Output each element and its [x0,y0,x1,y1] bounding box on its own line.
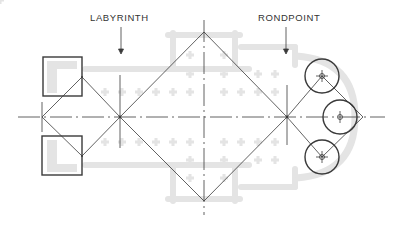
cathedral-geometry-diagram [0,0,405,227]
cathedral-plan-ghost [0,0,355,204]
labyrinth-arrow [119,27,124,54]
rondpoint-arrow [284,27,289,54]
central-diamond [120,32,287,201]
